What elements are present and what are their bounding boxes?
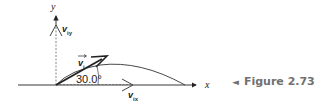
v-iy-label: viy [62,24,73,36]
v-ix-label: vix [128,90,139,102]
v-i-label: vi [78,58,85,70]
angle-label: 30.0° [76,73,102,85]
figure-caption: ◄Figure 2.73 [232,75,315,88]
caption-marker-icon: ◄ [232,77,239,87]
figure-caption-text: Figure 2.73 [244,75,315,88]
projectile-diagram: x y viy vix vi 30.0° [0,0,321,108]
y-axis-label: y [50,1,56,12]
x-axis-label: x [204,79,210,90]
